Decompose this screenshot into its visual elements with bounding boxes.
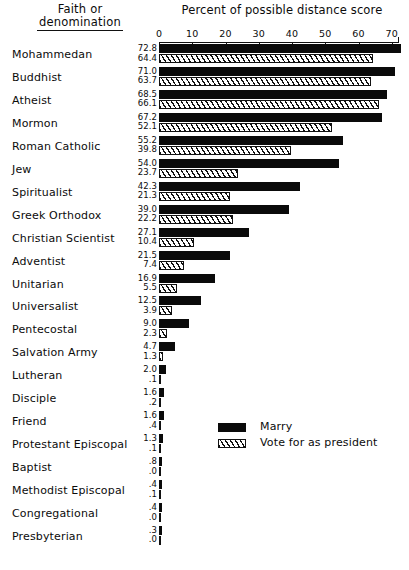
- value-label-vote: .2: [124, 398, 157, 408]
- chart-row: Atheist68.566.1: [0, 90, 409, 114]
- value-labels: 12.53.9: [124, 296, 157, 315]
- value-labels: .3.0: [124, 526, 157, 545]
- bar-vote: [159, 77, 371, 86]
- bar-marry: [159, 44, 401, 53]
- bar-marry: [159, 251, 230, 260]
- bar-marry: [159, 182, 300, 191]
- bar-marry: [159, 228, 249, 237]
- category-label: Universalist: [12, 300, 132, 314]
- bar-marry: [159, 388, 164, 397]
- bar-vote: [159, 169, 238, 178]
- x-axis-tick-label: 50: [319, 28, 332, 39]
- value-labels: 42.321.3: [124, 182, 157, 201]
- legend: Marry Vote for as president: [218, 421, 403, 461]
- value-label-vote: 5.5: [124, 283, 157, 293]
- category-label: Presbyterian: [12, 530, 132, 544]
- chart-row: Disciple1.6.2: [0, 388, 409, 412]
- chart-row: Christian Scientist27.110.4: [0, 228, 409, 252]
- chart-row: Pentecostal9.02.3: [0, 319, 409, 343]
- category-label: Jew: [12, 163, 132, 177]
- category-label: Protestant Episcopal: [12, 438, 132, 452]
- value-label-vote: 3.9: [124, 306, 157, 316]
- legend-label-marry: Marry: [260, 420, 292, 433]
- category-label: Spiritualist: [12, 186, 132, 200]
- value-labels: 55.239.8: [124, 136, 157, 155]
- value-label-vote: 1.3: [124, 352, 157, 362]
- x-axis-tick-label: 10: [186, 28, 199, 39]
- bar-chart: Faith or denomination Percent of possibl…: [0, 0, 409, 570]
- bar-vote: [159, 123, 332, 132]
- x-axis-tick-label: 70: [386, 28, 399, 39]
- bar-marry: [159, 319, 189, 328]
- value-label-vote: 23.7: [124, 168, 157, 178]
- value-labels: 4.71.3: [124, 342, 157, 361]
- value-labels: 16.95.5: [124, 274, 157, 293]
- category-label: Atheist: [12, 94, 132, 108]
- chart-row: Adventist21.57.4: [0, 251, 409, 275]
- bar-vote: [159, 146, 291, 155]
- x-axis-tick-label: 30: [253, 28, 266, 39]
- bar-marry: [159, 159, 339, 168]
- value-label-vote: 21.3: [124, 191, 157, 201]
- value-label-vote: .4: [124, 421, 157, 431]
- value-labels: 72.864.4: [124, 44, 157, 63]
- category-label: Christian Scientist: [12, 232, 132, 246]
- value-labels: 1.6.4: [124, 411, 157, 430]
- category-label: Unitarian: [12, 278, 132, 292]
- x-axis-tick-label: 60: [352, 28, 365, 39]
- bar-vote: [159, 215, 233, 224]
- bar-vote: [159, 536, 161, 545]
- category-label: Mohammedan: [12, 48, 132, 62]
- value-labels: 9.02.3: [124, 319, 157, 338]
- bar-vote: [159, 490, 161, 499]
- chart-row: Unitarian16.95.5: [0, 274, 409, 298]
- bar-vote: [159, 261, 184, 270]
- chart-row: Mohammedan72.864.4: [0, 44, 409, 68]
- value-labels: 1.3.1: [124, 434, 157, 453]
- bar-vote: [159, 375, 161, 384]
- chart-row: Greek Orthodox39.022.2: [0, 205, 409, 229]
- value-label-vote: 39.8: [124, 145, 157, 155]
- chart-row: Jew54.023.7: [0, 159, 409, 183]
- category-label: Baptist: [12, 461, 132, 475]
- value-labels: 68.566.1: [124, 90, 157, 109]
- bar-marry: [159, 526, 162, 535]
- bar-marry: [159, 67, 395, 76]
- bar-vote: [159, 54, 373, 63]
- bar-vote: [159, 329, 167, 338]
- value-label-vote: 22.2: [124, 214, 157, 224]
- value-labels: .8.0: [124, 457, 157, 476]
- value-label-vote: .0: [124, 467, 157, 477]
- value-label-vote: 64.4: [124, 54, 157, 64]
- value-labels: 2.0.1: [124, 365, 157, 384]
- category-label: Friend: [12, 415, 132, 429]
- x-axis-tick-label: 40: [286, 28, 299, 39]
- category-label: Salvation Army: [12, 346, 132, 360]
- value-label-vote: .1: [124, 375, 157, 385]
- x-axis-line: [159, 42, 398, 43]
- chart-row: Mormon67.252.1: [0, 113, 409, 137]
- value-labels: .4.0: [124, 503, 157, 522]
- bar-vote: [159, 467, 161, 476]
- bar-marry: [159, 113, 382, 122]
- bar-vote: [159, 352, 163, 361]
- value-labels: 1.6.2: [124, 388, 157, 407]
- category-label: Pentecostal: [12, 323, 132, 337]
- legend-item-marry: Marry: [218, 421, 403, 436]
- legend-label-vote: Vote for as president: [260, 436, 378, 449]
- value-label-vote: 66.1: [124, 99, 157, 109]
- column-header-faith-line1: Faith or: [58, 2, 103, 16]
- bar-vote: [159, 238, 194, 247]
- chart-row: Spiritualist42.321.3: [0, 182, 409, 206]
- chart-row: Salvation Army4.71.3: [0, 342, 409, 366]
- chart-row: Lutheran2.0.1: [0, 365, 409, 389]
- value-label-vote: 63.7: [124, 76, 157, 86]
- x-axis-tick-label: 20: [219, 28, 232, 39]
- value-label-vote: .1: [124, 444, 157, 454]
- bar-marry: [159, 296, 201, 305]
- bar-vote: [159, 421, 161, 430]
- category-label: Methodist Episcopal: [12, 484, 132, 498]
- category-label: Adventist: [12, 255, 132, 269]
- bar-vote: [159, 513, 161, 522]
- category-label: Lutheran: [12, 369, 132, 383]
